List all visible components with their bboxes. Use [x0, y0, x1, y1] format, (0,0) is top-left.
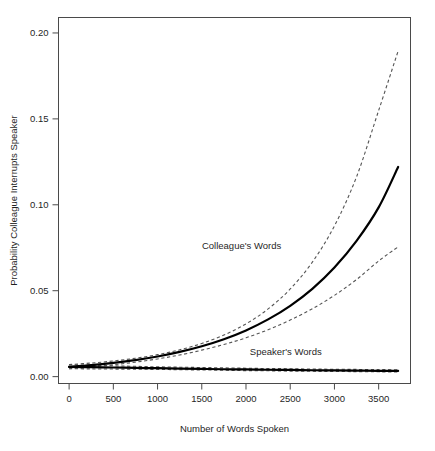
x-tick-label: 2000 — [235, 393, 256, 404]
x-tick-label: 3000 — [324, 393, 345, 404]
chart-figure: 0.000.050.100.150.20 0500100015002000250… — [0, 0, 435, 451]
y-tick-label: 0.15 — [30, 113, 49, 124]
curve-label: Speaker's Words — [250, 346, 322, 357]
x-tick-label: 1000 — [147, 393, 168, 404]
x-tick-label: 500 — [105, 393, 121, 404]
y-tick-label: 0.00 — [30, 371, 49, 382]
y-tick-label: 0.10 — [30, 199, 49, 210]
x-axis-title: Number of Words Spoken — [180, 423, 289, 434]
curve-label: Colleague's Words — [202, 240, 282, 251]
y-tick-label: 0.20 — [30, 27, 49, 38]
y-tick-label: 0.05 — [30, 285, 49, 296]
x-tick-label: 3500 — [368, 393, 389, 404]
y-axis-title: Probability Colleague Interrupts Speaker — [8, 115, 19, 286]
probability-interruption-line-chart: 0.000.050.100.150.20 0500100015002000250… — [0, 0, 435, 451]
x-tick-label: 0 — [66, 393, 71, 404]
x-tick-label: 1500 — [191, 393, 212, 404]
x-tick-label: 2500 — [280, 393, 301, 404]
